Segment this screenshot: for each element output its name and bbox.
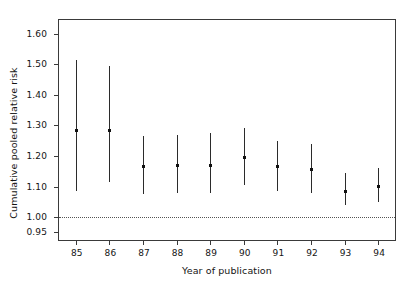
y-tick: 1.40 (54, 95, 59, 96)
x-tick: 87 (143, 240, 144, 245)
data-point-marker (209, 164, 212, 167)
y-tick-label: 1.20 (27, 151, 47, 161)
x-tick: 92 (311, 240, 312, 245)
y-tick: 1.20 (54, 156, 59, 157)
x-tick: 94 (378, 240, 379, 245)
x-tick-label: 92 (300, 248, 324, 258)
x-tick-label: 93 (334, 248, 358, 258)
data-point-marker (243, 156, 246, 159)
x-tick-label: 86 (98, 248, 122, 258)
plot-area: 0.951.001.101.201.301.401.501.60 8586878… (58, 19, 396, 241)
y-tick-label: 1.30 (27, 120, 47, 130)
y-axis-title: Cumulative pooled relative risk (0, 0, 26, 286)
x-tick: 93 (345, 240, 346, 245)
x-tick-label: 90 (233, 248, 257, 258)
data-point-marker (276, 165, 279, 168)
data-point-marker (310, 168, 313, 171)
data-point-marker (344, 190, 347, 193)
x-tick: 89 (210, 240, 211, 245)
x-tick-label: 88 (166, 248, 190, 258)
y-tick: 1.30 (54, 125, 59, 126)
y-tick: 0.95 (54, 232, 59, 233)
x-tick-label: 89 (199, 248, 223, 258)
x-tick-label: 94 (367, 248, 391, 258)
x-tick: 90 (244, 240, 245, 245)
x-tick: 85 (76, 240, 77, 245)
data-point-marker (142, 165, 145, 168)
y-tick: 1.50 (54, 64, 59, 65)
y-tick: 1.00 (54, 217, 59, 218)
confidence-interval-bar (109, 66, 110, 182)
cumulative-meta-analysis-chart: Cumulative pooled relative risk 0.951.00… (0, 0, 408, 286)
data-point-marker (75, 129, 78, 132)
x-axis-title: Year of publication (58, 265, 396, 276)
y-tick-label: 0.95 (27, 227, 47, 237)
y-tick-label: 1.60 (27, 29, 47, 39)
x-tick-label: 85 (65, 248, 89, 258)
y-tick: 1.60 (54, 34, 59, 35)
data-point-marker (176, 164, 179, 167)
confidence-interval-bar (76, 60, 77, 191)
x-tick-label: 91 (266, 248, 290, 258)
x-tick: 86 (109, 240, 110, 245)
x-tick: 91 (277, 240, 278, 245)
y-tick-label: 1.40 (27, 90, 47, 100)
x-tick-label: 87 (132, 248, 156, 258)
y-tick-label: 1.10 (27, 182, 47, 192)
data-point-marker (377, 185, 380, 188)
x-tick: 88 (177, 240, 178, 245)
y-tick: 1.10 (54, 187, 59, 188)
reference-line-at-1 (59, 217, 395, 218)
y-tick-label: 1.00 (27, 212, 47, 222)
y-tick-label: 1.50 (27, 59, 47, 69)
data-point-marker (108, 129, 111, 132)
